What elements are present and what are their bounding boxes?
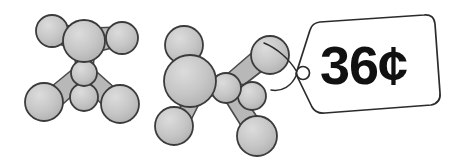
left-atom-lower-right	[101, 85, 139, 123]
right-atom-small-right	[238, 82, 266, 110]
left-atom-bottom-center	[70, 83, 98, 111]
left-atom-lower-left	[25, 83, 63, 121]
price-tag[interactable]: 36¢	[264, 15, 440, 113]
right-atom-lower-right	[237, 116, 277, 156]
tag-string	[271, 75, 297, 91]
right-atom-big-left	[164, 55, 216, 107]
tag-hole-icon	[297, 67, 310, 80]
left-atom-center-upper	[63, 20, 105, 62]
left-atom-upper-right	[106, 22, 138, 54]
price-tag-label: 36¢	[320, 35, 407, 95]
molecule-price-tag-illustration: 36¢	[0, 0, 449, 164]
figure-canvas: Ball-and-stick molecular models with pri…	[0, 0, 449, 164]
molecule-left	[25, 15, 139, 123]
right-atom-lower-left	[155, 107, 193, 145]
left-atom-center-lower	[71, 60, 97, 86]
molecule-left-atoms	[25, 15, 139, 123]
